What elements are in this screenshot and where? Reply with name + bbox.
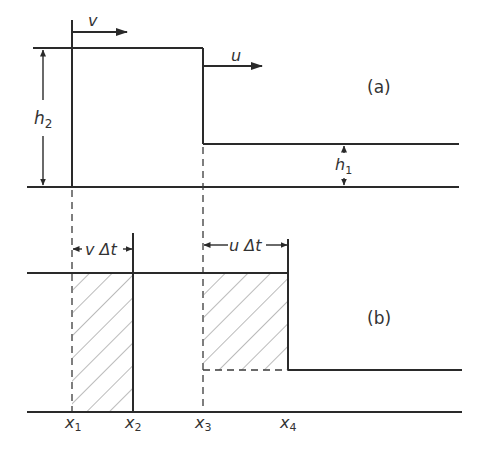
- x2-label: x2: [124, 413, 141, 434]
- x3-label: x3: [194, 413, 211, 434]
- panel-b-label: (b): [367, 308, 391, 328]
- h2-label: h2: [34, 108, 52, 131]
- panel-a-label: (a): [367, 77, 391, 97]
- panel-a: v u h2 h1 (a): [27, 11, 459, 187]
- hatched-region-bore: [203, 273, 288, 370]
- hatched-region-upstream: [72, 273, 133, 412]
- h1-label: h1: [335, 155, 352, 177]
- v-dt-label: v Δt: [85, 240, 118, 259]
- u-label: u: [231, 46, 241, 65]
- x1-label: x1: [64, 413, 81, 434]
- hydraulic-jump-diagram: v u h2 h1 (a) v Δt: [0, 0, 488, 453]
- u-dt-label: u Δt: [229, 236, 262, 255]
- v-label: v: [88, 11, 98, 30]
- x4-label: x4: [279, 413, 296, 434]
- panel-b: v Δt u Δt (b) x1 x2 x3 x4: [27, 233, 462, 434]
